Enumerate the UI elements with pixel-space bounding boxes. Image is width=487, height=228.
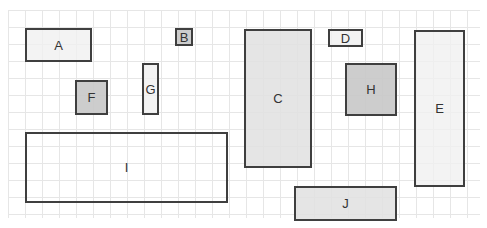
- box-i: I: [25, 132, 228, 203]
- box-label: I: [125, 160, 129, 175]
- box-label: E: [435, 101, 444, 116]
- box-label: D: [341, 31, 350, 46]
- box-e: E: [414, 30, 465, 187]
- box-label: C: [273, 91, 282, 106]
- box-label: A: [54, 38, 63, 53]
- box-b: B: [175, 28, 193, 46]
- box-g: G: [142, 63, 159, 115]
- box-c: C: [244, 29, 312, 168]
- box-h: H: [345, 63, 397, 116]
- box-j: J: [294, 186, 397, 221]
- box-label: G: [145, 82, 155, 97]
- box-a: A: [25, 28, 92, 62]
- diagram-canvas: ABCDEFGHIJ: [0, 0, 487, 228]
- box-label: H: [366, 82, 375, 97]
- box-label: J: [342, 196, 349, 211]
- box-f: F: [75, 80, 108, 115]
- box-label: F: [88, 90, 96, 105]
- box-label: B: [180, 30, 189, 45]
- box-d: D: [328, 29, 363, 47]
